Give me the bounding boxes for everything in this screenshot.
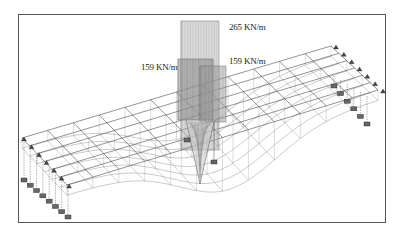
spring-support-icon — [40, 194, 46, 198]
spring-support-icon — [211, 160, 217, 164]
pin-support-icon — [365, 74, 370, 78]
spring-support-icon — [34, 189, 40, 193]
pin-support-icon — [37, 153, 42, 157]
spring-support-icon — [65, 215, 71, 219]
spring-support-icon — [52, 204, 58, 208]
pin-support-icon — [357, 67, 362, 71]
spring-support-icon — [184, 138, 190, 142]
pin-support-icon — [341, 52, 346, 56]
spring-support-icon — [59, 210, 65, 214]
pin-support-icon — [52, 168, 57, 172]
pin-support-icon — [381, 89, 386, 93]
pin-support-icon — [44, 161, 49, 165]
pin-support-icon — [22, 137, 27, 141]
spring-support-icon — [46, 199, 52, 203]
spring-support-icon — [364, 122, 370, 126]
spring-support-icon — [331, 84, 337, 88]
line-load-planes — [178, 21, 226, 184]
pin-support-icon — [373, 82, 378, 86]
pin-support-icon — [59, 176, 64, 180]
spring-support-icon — [21, 178, 27, 182]
grillage-diagram — [0, 0, 405, 236]
pin-support-icon — [29, 145, 34, 149]
load-label-265: 265 KN/m — [229, 22, 266, 32]
spring-support-icon — [357, 114, 363, 118]
spring-support-icon — [344, 99, 350, 103]
pin-support-icon — [349, 60, 354, 64]
load-label-159-left: 159 KN/m — [141, 62, 178, 72]
spring-support-icon — [351, 107, 357, 111]
spring-support-icon — [27, 183, 33, 187]
pin-support-icon — [334, 45, 339, 49]
load-label-159-right: 159 KN/m — [229, 56, 266, 66]
load-plane-159-right — [200, 66, 226, 122]
spring-support-icon — [338, 92, 344, 96]
pin-support-icon — [67, 184, 72, 188]
